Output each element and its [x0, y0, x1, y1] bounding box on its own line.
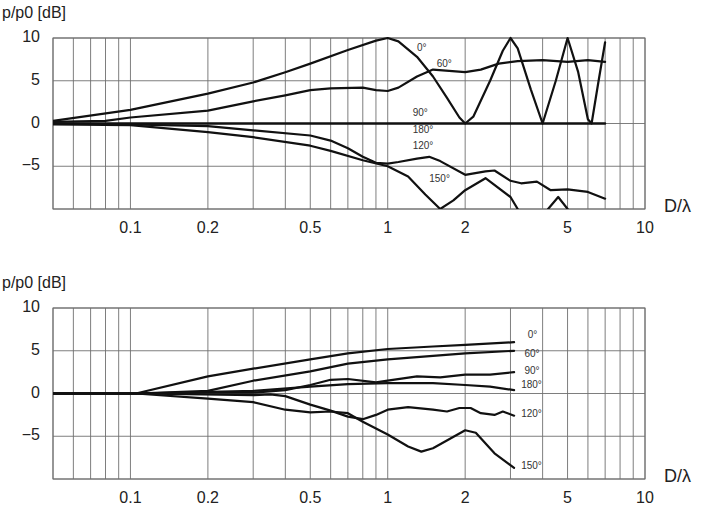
curve-label: 180°	[413, 124, 434, 135]
curve-label: 90°	[524, 365, 539, 376]
series-line-180deg	[53, 383, 514, 393]
x-tick-label: 1	[383, 489, 392, 507]
curve-label: 60°	[524, 348, 539, 359]
series-line-120deg	[53, 124, 605, 199]
curve-label: 0°	[417, 42, 427, 53]
curve-label: 60°	[437, 58, 452, 69]
curve-label: 150°	[429, 173, 450, 184]
series-line-150deg	[53, 394, 514, 468]
series-line-120deg	[53, 394, 514, 420]
x-axis-label: D/λ	[664, 466, 691, 487]
curve-label: 0°	[528, 329, 538, 340]
series-line-60deg	[53, 60, 605, 122]
y-tick-label: −5	[4, 426, 40, 444]
y-tick-label: 0	[4, 384, 40, 402]
curve-label: 120°	[413, 140, 434, 151]
y-tick-label: 5	[4, 341, 40, 359]
x-tick-label: 5	[563, 219, 572, 237]
y-tick-label: 10	[4, 298, 40, 316]
top-chart-plot	[0, 0, 717, 255]
curve-label: 90°	[413, 107, 428, 118]
x-tick-label: 0.2	[197, 219, 219, 237]
curve-label: 150°	[521, 460, 542, 471]
y-tick-label: 10	[4, 28, 40, 46]
x-tick-label: 0.1	[119, 489, 141, 507]
y-tick-label: −5	[4, 156, 40, 174]
top-chart: p/p0 [dB] D/λ 1050−50.10.20.5125100°60°9…	[0, 0, 717, 255]
y-tick-label: 5	[4, 71, 40, 89]
x-tick-label: 0.2	[197, 489, 219, 507]
series-line-0deg	[53, 342, 514, 393]
x-axis-label: D/λ	[664, 196, 691, 217]
x-tick-label: 5	[563, 489, 572, 507]
x-tick-label: 10	[636, 489, 654, 507]
x-tick-label: 0.5	[299, 219, 321, 237]
bottom-chart-plot	[0, 270, 717, 521]
x-tick-label: 1	[383, 219, 392, 237]
curve-label: 120°	[521, 408, 542, 419]
x-tick-label: 0.5	[299, 489, 321, 507]
x-tick-label: 2	[461, 219, 470, 237]
curve-label: 180°	[521, 379, 542, 390]
x-tick-label: 2	[461, 489, 470, 507]
bottom-chart: p/p0 [dB] D/λ 1050−50.10.20.5125100°60°9…	[0, 270, 717, 521]
y-tick-label: 0	[4, 114, 40, 132]
series-line-60deg	[53, 351, 514, 394]
x-tick-label: 10	[636, 219, 654, 237]
x-tick-label: 0.1	[119, 219, 141, 237]
